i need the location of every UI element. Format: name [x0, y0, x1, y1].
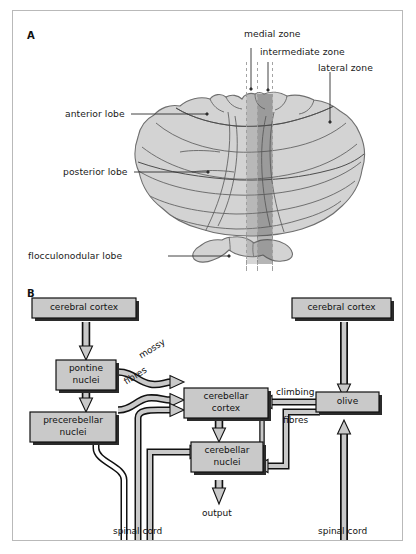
node-label-cerebellar-nuclei-line1[interactable]: cerebellar [191, 445, 263, 455]
zone-bands [247, 94, 273, 264]
label-intermediate-zone: intermediate zone [260, 46, 345, 57]
edge-spinalcord-to-cerebellar-cortex [138, 404, 184, 541]
node-label-cerebellar-cortex-line1[interactable]: cerebellar [184, 391, 268, 401]
terminal-label-spinal-cord-right: spinal cord [318, 526, 367, 536]
label-medial-zone: medial zone [244, 28, 301, 39]
panel-a-graphic [0, 0, 416, 290]
node-label-pontine-nuclei-line1[interactable]: pontine [56, 363, 116, 373]
edge-label-climbing: climbing [276, 387, 314, 397]
node-label-cerebellar-cortex-line2[interactable]: cortex [184, 403, 268, 413]
edge-cerebellar-cortex-to-nuclei [213, 418, 226, 442]
node-label-cerebellar-nuclei-line2[interactable]: nuclei [191, 457, 263, 467]
node-label-olive[interactable]: olive [316, 396, 379, 406]
node-label-precerebellar-nuclei-line1[interactable]: precerebellar [30, 415, 116, 425]
node-label-pontine-nuclei-line2[interactable]: nuclei [56, 375, 116, 385]
edge-cortexR-to-olive [338, 322, 351, 398]
node-label-cerebral-cortex-left[interactable]: cerebral cortex [48, 302, 120, 312]
figure-root: A [0, 0, 416, 554]
label-lateral-zone: lateral zone [318, 62, 373, 73]
edge-spinalcord-to-precerebellar [90, 429, 125, 540]
edge-spinalcordR-to-olive [338, 420, 351, 540]
label-flocculonodular-lobe: flocculonodular lobe [28, 250, 122, 261]
edge-cerebellar-nuclei-to-output [213, 480, 226, 504]
edge-pontine-to-precerebellar [80, 390, 93, 412]
node-label-precerebellar-nuclei-line2[interactable]: nuclei [30, 427, 116, 437]
label-posterior-lobe: posterior lobe [63, 166, 128, 177]
terminal-label-output: output [202, 508, 232, 518]
edge-label-fibres-right: fibres [283, 415, 308, 425]
edge-cortexL-to-pontine [80, 322, 93, 360]
label-anterior-lobe: anterior lobe [65, 108, 125, 119]
terminal-label-spinal-cord-left: spinal cord [113, 526, 162, 536]
node-label-cerebral-cortex-right[interactable]: cerebral cortex [304, 302, 379, 312]
